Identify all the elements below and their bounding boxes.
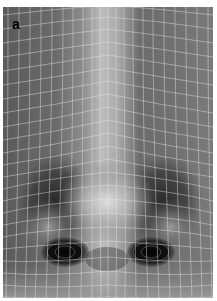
nose-mesh-figure: a bbox=[3, 7, 213, 298]
nose-mesh-render bbox=[3, 7, 213, 298]
panel-label: a bbox=[12, 17, 20, 31]
